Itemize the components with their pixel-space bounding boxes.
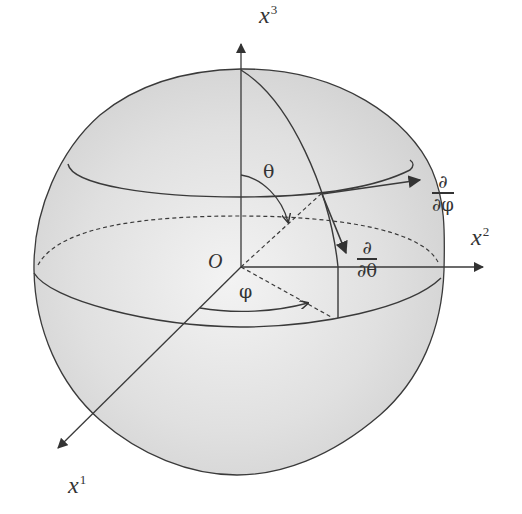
diagram-canvas (0, 0, 522, 514)
origin-label: O (208, 250, 222, 273)
theta-label: θ (263, 160, 274, 182)
x3-superscript: 3 (271, 2, 278, 17)
d-dphi-numerator: ∂ (438, 173, 447, 192)
phi-label: φ (239, 280, 252, 302)
d-dtheta-label: ∂ ∂θ (357, 239, 377, 280)
x1-base: x (68, 472, 79, 498)
spherical-coordinates-diagram: x3 x2 x1 O θ φ ∂ ∂φ ∂ ∂θ (0, 0, 522, 514)
x3-base: x (259, 2, 270, 28)
d-dphi-denominator: ∂φ (432, 194, 454, 214)
x3-axis-label: x3 (259, 2, 277, 29)
d-dtheta-numerator: ∂ (362, 239, 371, 258)
x2-superscript: 2 (483, 224, 490, 239)
d-dtheta-denominator: ∂θ (357, 260, 377, 280)
sphere (34, 69, 444, 475)
x2-axis-label: x2 (471, 224, 489, 251)
d-dphi-label: ∂ ∂φ (432, 173, 454, 214)
x1-axis-label: x1 (68, 472, 86, 499)
x2-base: x (471, 224, 482, 250)
x1-superscript: 1 (80, 472, 87, 487)
